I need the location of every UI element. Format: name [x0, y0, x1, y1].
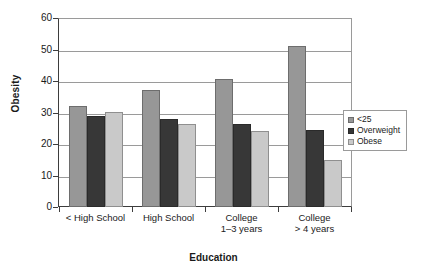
bar-group	[278, 19, 351, 207]
chart-legend: <25OverweightObese	[343, 110, 407, 151]
y-axis-tick-label: 10	[22, 171, 52, 181]
bar-chart: Obesity 0102030405060 < High SchoolHigh …	[0, 0, 427, 276]
legend-item: Overweight	[348, 125, 403, 136]
bar	[288, 46, 306, 207]
bar-group	[59, 19, 132, 207]
bar	[178, 124, 196, 207]
y-axis-tick-label: 60	[22, 13, 52, 23]
legend-swatch-icon	[348, 128, 354, 134]
x-axis-category-label: High School	[132, 212, 205, 234]
bar	[215, 79, 233, 207]
legend-swatch-icon	[348, 117, 354, 123]
bar	[233, 124, 251, 207]
y-axis-tick-label: 30	[22, 108, 52, 118]
y-axis-tick-label: 50	[22, 45, 52, 55]
x-axis-category-label: < High School	[59, 212, 132, 234]
y-axis-tick-label: 20	[22, 139, 52, 149]
bar	[306, 130, 324, 207]
legend-label: <25	[357, 114, 371, 125]
legend-item: <25	[348, 114, 403, 125]
x-axis-title: Education	[0, 252, 427, 263]
legend-swatch-icon	[348, 139, 354, 145]
y-axis-tick-label: 0	[22, 202, 52, 212]
y-axis-tick	[53, 207, 58, 208]
x-axis-category-label: College> 4 years	[278, 212, 351, 234]
bar	[251, 131, 269, 207]
y-axis-tick-label: 40	[22, 76, 52, 86]
bar	[87, 116, 105, 207]
bar	[142, 90, 160, 207]
x-axis-category-label: College1–3 years	[205, 212, 278, 234]
legend-label: Obese	[357, 136, 382, 147]
bar	[105, 112, 123, 207]
bar-groups	[59, 19, 351, 207]
bar-group	[132, 19, 205, 207]
x-axis-labels: < High SchoolHigh SchoolCollege1–3 years…	[59, 212, 351, 234]
legend-label: Overweight	[357, 125, 400, 136]
bar-group	[205, 19, 278, 207]
legend-item: Obese	[348, 136, 403, 147]
x-axis-tick	[351, 207, 352, 212]
bar	[160, 119, 178, 207]
bar	[69, 106, 87, 207]
bar	[324, 160, 342, 207]
y-axis-title: Obesity	[10, 59, 21, 129]
